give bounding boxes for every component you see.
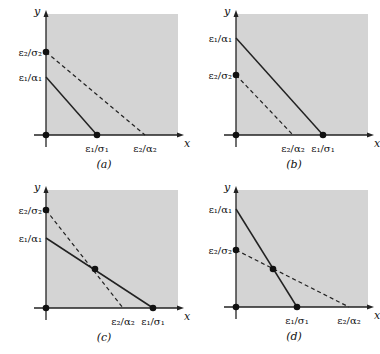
equilibrium-point <box>233 72 240 79</box>
x-axis-label: x <box>374 137 380 150</box>
x-tick-label: ε₁/σ₁ <box>85 143 108 154</box>
x-tick-label: ε₁/σ₁ <box>141 316 164 327</box>
x-arrow-icon <box>367 133 374 138</box>
x-tick-label: ε₂/α₂ <box>337 315 360 326</box>
x-arrow-icon <box>177 133 184 138</box>
y-tick-label: ε₂/σ₂ <box>209 70 232 81</box>
equilibrium-point <box>233 132 240 139</box>
x-tick-label: ε₂/α₂ <box>111 316 134 327</box>
panel-caption: (c) <box>97 331 112 344</box>
x-tick-label: ε₂/α₂ <box>281 143 304 154</box>
equilibrium-point <box>294 304 301 311</box>
x-axis-label: x <box>184 310 191 323</box>
equilibrium-point <box>92 266 99 273</box>
shaded-region <box>236 190 368 307</box>
y-tick-label: ε₂/σ₂ <box>19 205 42 216</box>
equilibrium-point <box>94 132 101 139</box>
y-tick-label: ε₁/α₁ <box>19 233 42 244</box>
equilibrium-point <box>43 49 50 56</box>
panel-d: xyε₁/α₁ε₂/σ₂ε₁/σ₁ε₂/α₂(d) <box>209 181 380 343</box>
panel-b: xyε₁/α₁ε₂/σ₂ε₂/α₂ε₁/σ₁(b) <box>209 5 380 171</box>
y-arrow-icon <box>44 10 49 17</box>
shaded-region <box>236 14 368 135</box>
panel-caption: (d) <box>286 330 302 343</box>
equilibrium-point <box>233 304 240 311</box>
y-axis-label: y <box>223 181 231 194</box>
equilibrium-point <box>320 132 327 139</box>
y-arrow-icon <box>234 10 239 17</box>
panel-c: xyε₂/σ₂ε₁/α₁ε₂/α₂ε₁/σ₁(c) <box>19 181 191 344</box>
y-axis-label: y <box>33 181 41 194</box>
x-tick-label: ε₂/α₂ <box>133 143 156 154</box>
x-axis-label: x <box>374 309 380 322</box>
y-tick-label: ε₁/α₁ <box>209 204 232 215</box>
y-tick-label: ε₁/α₁ <box>209 33 232 44</box>
y-axis-label: y <box>223 5 231 18</box>
equilibrium-point <box>270 266 277 273</box>
shaded-region <box>46 14 178 135</box>
panel-caption: (b) <box>286 158 302 171</box>
y-tick-label: ε₂/σ₂ <box>209 245 232 256</box>
x-arrow-icon <box>177 306 184 311</box>
y-tick-label: ε₂/σ₂ <box>19 47 42 58</box>
equilibrium-point <box>150 305 157 312</box>
equilibrium-point <box>43 207 50 214</box>
panel-caption: (a) <box>96 158 111 171</box>
y-tick-label: ε₁/α₁ <box>19 72 42 83</box>
x-tick-label: ε₁/σ₁ <box>285 315 308 326</box>
shaded-region <box>46 190 178 308</box>
panel-a: xyε₂/σ₂ε₁/α₁ε₁/σ₁ε₂/α₂(a) <box>19 5 191 171</box>
y-axis-label: y <box>33 5 41 18</box>
x-axis-label: x <box>184 137 191 150</box>
y-arrow-icon <box>44 186 49 193</box>
equilibrium-point <box>43 132 50 139</box>
diagram-root: xyε₂/σ₂ε₁/α₁ε₁/σ₁ε₂/α₂(a)xyε₁/α₁ε₂/σ₂ε₂/… <box>0 0 380 354</box>
x-tick-label: ε₁/σ₁ <box>311 143 334 154</box>
equilibrium-point <box>233 247 240 254</box>
phase-diagrams: xyε₂/σ₂ε₁/α₁ε₁/σ₁ε₂/α₂(a)xyε₁/α₁ε₂/σ₂ε₂/… <box>0 0 380 354</box>
x-arrow-icon <box>367 305 374 310</box>
equilibrium-point <box>43 305 50 312</box>
y-arrow-icon <box>234 186 239 193</box>
